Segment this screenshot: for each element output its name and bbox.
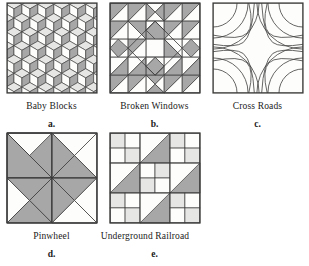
broken-windows-artwork [109, 2, 201, 94]
figure-letter-underground-railroad: e. [151, 249, 158, 259]
figure-letter-pinwheel: d. [48, 249, 56, 259]
underground-railroad-artwork [109, 132, 201, 224]
figure-caption-broken-windows: Broken Windows [120, 101, 188, 112]
figure-plate: Baby Blocks a. [0, 0, 309, 266]
figure-cross-roads: Cross Roads c. [206, 0, 309, 129]
figure-broken-windows: Broken Windows b. [103, 0, 206, 129]
cross-roads-artwork [212, 2, 304, 94]
figure-letter-broken-windows: b. [151, 119, 159, 129]
baby-blocks-artwork [6, 2, 98, 94]
figure-caption-cross-roads: Cross Roads [233, 101, 282, 112]
figure-caption-pinwheel: Pinwheel [33, 231, 70, 242]
figure-baby-blocks: Baby Blocks a. [0, 0, 103, 129]
figure-row-top: Baby Blocks a. [0, 0, 309, 129]
figure-letter-cross-roads: c. [254, 119, 261, 129]
figure-caption-baby-blocks: Baby Blocks [26, 101, 76, 112]
figure-letter-baby-blocks: a. [48, 119, 55, 129]
figure-row-bottom: Pinwheel d. [0, 130, 206, 259]
pinwheel-artwork [6, 132, 98, 224]
figure-underground-railroad: Underground Railroad e. [103, 130, 206, 259]
figure-caption-underground-railroad: Underground Railroad [75, 231, 215, 242]
